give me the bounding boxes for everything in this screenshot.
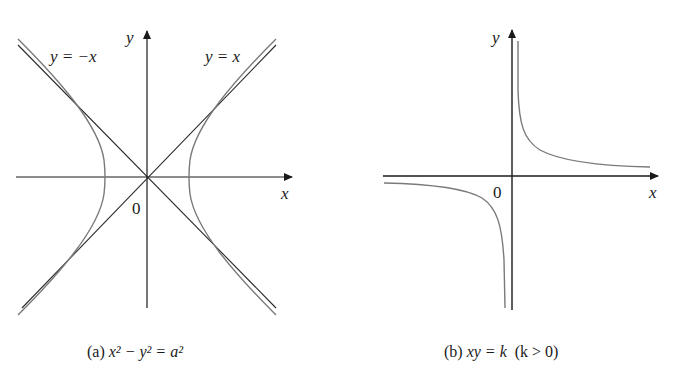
label-y-equals-neg-x: y = −x: [48, 47, 97, 66]
hyperbola-figure: y x 0 y = −x y = x y x 0: [0, 0, 675, 387]
panel-a-origin-label: 0: [132, 199, 141, 218]
panel-a-caption: (a) x² − y² = a²: [87, 343, 183, 361]
label-y-equals-x: y = x: [203, 47, 241, 66]
panel-b-x-label: x: [648, 183, 657, 202]
panel-a-caption-equation: x² − y² = a²: [109, 343, 183, 360]
panel-a-x-label: x: [280, 184, 289, 203]
hyperbola-third-quadrant-branch: [384, 183, 505, 308]
panel-b-caption-prefix: (b): [444, 343, 463, 360]
panel-a-graph: y x 0 y = −x y = x: [16, 28, 292, 315]
panel-b-caption-condition: (k > 0): [515, 343, 559, 360]
panel-b-origin-label: 0: [493, 183, 502, 202]
panel-a-caption-prefix: (a): [87, 343, 105, 360]
panel-b-caption-equation: xy = k: [467, 343, 507, 360]
panel-a-y-label: y: [124, 28, 134, 47]
panel-b-caption: (b) xy = k (k > 0): [444, 343, 558, 361]
hyperbola-first-quadrant-branch: [518, 41, 650, 167]
panel-b-graph: y x 0: [383, 28, 658, 310]
panel-b-y-label: y: [490, 28, 500, 47]
